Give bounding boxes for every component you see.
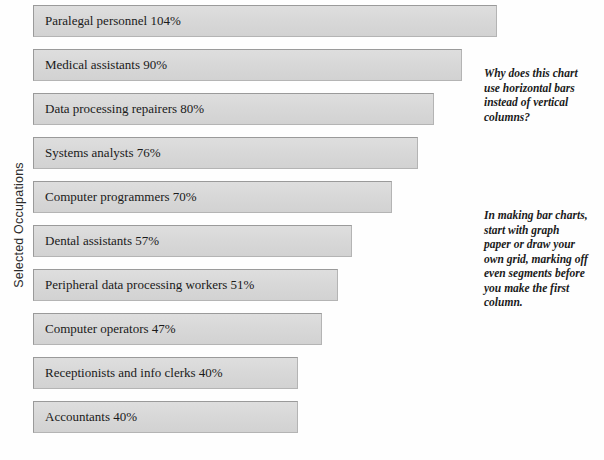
bar: Accountants 40% <box>33 401 298 433</box>
annotation-question: Why does this chart use horizontal bars … <box>484 66 588 124</box>
bar-label: Dental assistants 57% <box>45 233 159 249</box>
bar-label: Systems analysts 76% <box>45 145 161 161</box>
bar: Paralegal personnel 104% <box>33 5 497 37</box>
bar-row: Peripheral data processing workers 51% <box>33 269 338 305</box>
y-axis-label-container: Selected Occupations <box>0 0 33 460</box>
bar-chart-plot-area: Paralegal personnel 104%Medical assistan… <box>33 0 504 460</box>
bar-row: Receptionists and info clerks 40% <box>33 357 298 393</box>
bar: Dental assistants 57% <box>33 225 352 257</box>
bar: Data processing repairers 80% <box>33 93 434 125</box>
bar: Medical assistants 90% <box>33 49 462 81</box>
bar-row: Accountants 40% <box>33 401 298 437</box>
bar-label: Paralegal personnel 104% <box>45 13 181 29</box>
bar-label: Computer programmers 70% <box>45 189 197 205</box>
chart-page: Selected Occupations Paralegal personnel… <box>0 0 604 460</box>
bar-row: Systems analysts 76% <box>33 137 418 173</box>
bar-label: Data processing repairers 80% <box>45 101 204 117</box>
bar-row: Paralegal personnel 104% <box>33 5 497 41</box>
bar-row: Dental assistants 57% <box>33 225 352 261</box>
bar-label: Medical assistants 90% <box>45 57 167 73</box>
y-axis-label: Selected Occupations <box>12 130 26 320</box>
bar-label: Accountants 40% <box>45 409 137 425</box>
bar: Receptionists and info clerks 40% <box>33 357 298 389</box>
bar: Systems analysts 76% <box>33 137 418 169</box>
bar-label: Peripheral data processing workers 51% <box>45 277 254 293</box>
bar-label: Receptionists and info clerks 40% <box>45 365 223 381</box>
bar-row: Medical assistants 90% <box>33 49 462 85</box>
bar-label: Computer operators 47% <box>45 321 176 337</box>
bar: Computer operators 47% <box>33 313 322 345</box>
bar: Peripheral data processing workers 51% <box>33 269 338 301</box>
bar-row: Computer operators 47% <box>33 313 322 349</box>
bar: Computer programmers 70% <box>33 181 392 213</box>
bar-row: Computer programmers 70% <box>33 181 392 217</box>
annotation-tip: In making bar charts, start with graph p… <box>484 208 588 310</box>
bar-row: Data processing repairers 80% <box>33 93 434 129</box>
